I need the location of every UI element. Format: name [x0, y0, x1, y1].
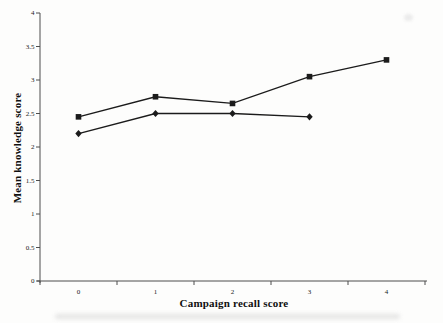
scan-artifact-dot — [404, 14, 413, 21]
data-point-diamond — [306, 113, 312, 120]
plot-area: 00.511.522.533.5401234 — [0, 0, 443, 323]
y-tick-label: 1.5 — [26, 177, 35, 185]
data-point-square — [153, 94, 159, 100]
square-marker-series-line — [79, 60, 387, 117]
y-tick-label: 2.5 — [26, 110, 35, 118]
x-axis-title: Campaign recall score — [180, 297, 289, 309]
y-tick-label: 0 — [31, 277, 35, 285]
y-tick-label: 2 — [31, 143, 35, 151]
y-axis-title: Mean knowledge score — [11, 93, 23, 204]
scan-artifact-smudge — [55, 314, 400, 319]
x-tick-label: 2 — [231, 288, 235, 296]
y-tick-label: 1 — [31, 210, 35, 218]
data-point-square — [384, 57, 390, 63]
diamond-marker-series-line — [79, 114, 310, 134]
data-point-square — [307, 74, 313, 80]
chart-figure: 00.511.522.533.5401234 Mean knowledge sc… — [0, 0, 443, 323]
x-tick-label: 0 — [77, 288, 81, 296]
data-point-diamond — [229, 110, 235, 117]
y-tick-label: 0.5 — [26, 244, 35, 252]
y-tick-label: 3.5 — [26, 43, 35, 51]
y-tick-label: 3 — [31, 76, 35, 84]
data-point-square — [230, 101, 236, 107]
x-tick-label: 1 — [154, 288, 158, 296]
data-point-square — [76, 114, 82, 120]
x-tick-label: 3 — [308, 288, 312, 296]
data-point-diamond — [152, 110, 158, 117]
x-tick-label: 4 — [385, 288, 389, 296]
data-point-diamond — [75, 130, 81, 137]
y-tick-label: 4 — [31, 9, 35, 17]
